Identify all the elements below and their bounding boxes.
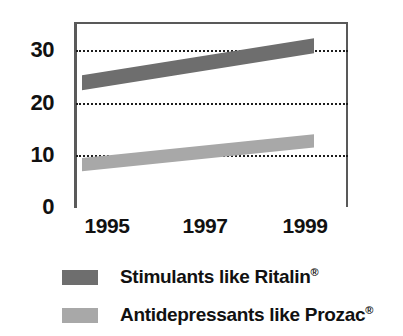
legend-label-stimulants-text: Stimulants like Ritalin: [120, 266, 311, 287]
registered-trademark-icon: ®: [311, 266, 319, 278]
legend-label-stimulants: Stimulants like Ritalin®: [120, 266, 318, 288]
legend-swatch-stimulants: [62, 270, 98, 285]
legend-label-antidepressants-text: Antidepressants like Prozac: [120, 304, 365, 325]
y-tick-label-10: 10: [8, 144, 54, 166]
y-tick-label-0: 0: [8, 196, 54, 218]
series-layer: [76, 22, 348, 207]
legend-label-antidepressants: Antidepressants like Prozac®: [120, 304, 373, 326]
plot-area: [76, 22, 348, 207]
series-band-antidepressants: [82, 134, 314, 171]
legend-swatch-antidepressants: [62, 308, 98, 323]
y-tick-label-30: 30: [8, 39, 54, 61]
x-tick-label-1995: 1995: [72, 215, 142, 236]
legend-item-antidepressants: Antidepressants like Prozac®: [62, 296, 403, 334]
chart-legend: Stimulants like Ritalin® Antidepressants…: [62, 258, 403, 334]
series-band-stimulants: [82, 38, 314, 90]
chart-figure: 30 20 10 0 1995 1997 1999 Stimulants lik…: [0, 0, 403, 336]
registered-trademark-icon: ®: [365, 304, 373, 316]
x-tick-label-1999: 1999: [270, 215, 340, 236]
x-tick-label-1997: 1997: [170, 215, 240, 236]
y-tick-label-20: 20: [8, 92, 54, 114]
legend-item-stimulants: Stimulants like Ritalin®: [62, 258, 403, 296]
